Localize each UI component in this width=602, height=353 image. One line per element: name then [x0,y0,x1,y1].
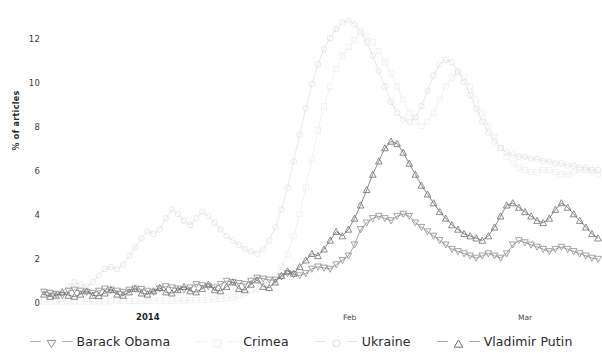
triangle-down-marker-icon [45,335,58,348]
series-vladimir-putin [41,138,602,299]
legend-item-ukraine[interactable]: Ukraine [315,334,411,349]
legend-item-crimea[interactable]: Crimea [196,334,288,349]
plot-area [0,0,602,318]
legend-line2-vladimir-putin [469,341,480,342]
legend-line-barack-obama [30,341,41,342]
legend-item-barack-obama[interactable]: Barack Obama [30,334,171,349]
legend-label-vladimir-putin: Vladimir Putin [484,334,573,349]
series-layer [0,0,602,318]
legend-line-vladimir-putin [437,341,448,342]
legend-line2-ukraine [347,341,358,342]
series-barack-obama [41,211,602,299]
x-axis-tick-feb: Feb [343,313,356,322]
triangle-up-marker-icon [452,335,465,348]
legend-item-vladimir-putin[interactable]: Vladimir Putin [437,334,573,349]
legend-line2-barack-obama [62,341,73,342]
series-ukraine [41,18,601,296]
legend-line2-crimea [228,341,239,342]
legend-line-crimea [196,341,207,342]
circle-marker-icon [330,335,343,348]
x-axis-tick-mar: Mar [518,313,532,322]
chart-container: % of articles 12 10 8 6 4 2 0 2014 Feb M… [0,0,602,353]
legend-label-barack-obama: Barack Obama [77,334,171,349]
x-axis-tick-2014: 2014 [136,312,160,322]
legend-line-ukraine [315,341,326,342]
square-marker-icon [211,335,224,348]
chart-legend: Barack Obama Crimea Ukraine Vladimir P [0,329,602,353]
legend-label-crimea: Crimea [243,334,288,349]
legend-label-ukraine: Ukraine [362,334,411,349]
